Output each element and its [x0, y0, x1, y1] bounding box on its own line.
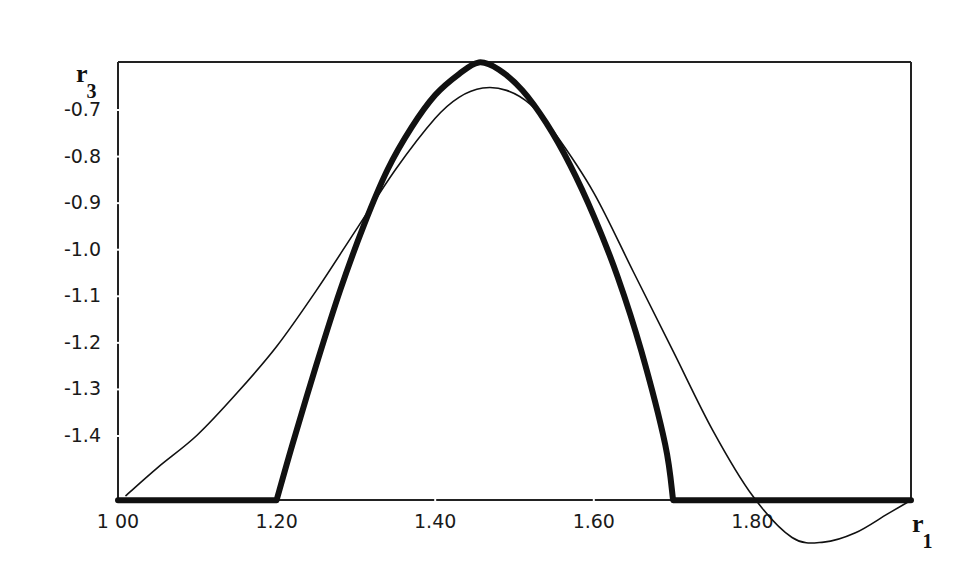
x-axis-label: r1: [912, 509, 933, 552]
y-tick-label: -0.9: [64, 191, 101, 213]
x-tick-label: 1 00: [97, 510, 139, 532]
y-axis-label: r3: [76, 59, 97, 102]
y-tick-label: -0.8: [64, 145, 101, 167]
x-tick-label: 1.60: [573, 510, 615, 532]
y-tick-label: -1.1: [64, 284, 101, 306]
x-axis-ticks: 1 001.201.401.601.80: [97, 500, 774, 532]
y-tick-label: -1.2: [64, 331, 101, 353]
y-tick-label: -1.0: [64, 238, 101, 260]
x-tick-label: 1.20: [255, 510, 297, 532]
x-tick-label: 1.40: [414, 510, 456, 532]
y-tick-label: -1.4: [64, 424, 101, 446]
thick-curve-series: [118, 62, 911, 500]
line-chart: -0.7-0.8-0.9-1.0-1.1-1.2-1.3-1.4 1 001.2…: [0, 0, 965, 580]
y-tick-label: -1.3: [64, 377, 101, 399]
series-layer: [118, 62, 911, 543]
plot-frame: [118, 62, 911, 500]
y-axis-ticks: -0.7-0.8-0.9-1.0-1.1-1.2-1.3-1.4: [64, 98, 118, 446]
thin-curve-series: [126, 88, 911, 544]
